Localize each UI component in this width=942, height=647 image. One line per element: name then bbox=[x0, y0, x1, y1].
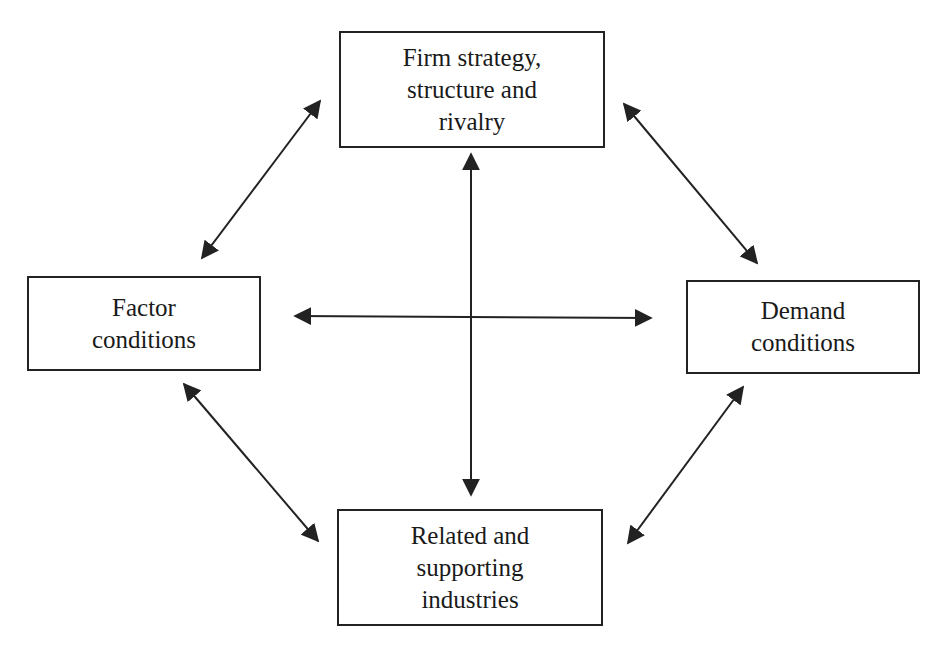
arrow-factor-demand bbox=[295, 316, 651, 318]
node-firm-strategy: Firm strategy, structure and rivalry bbox=[339, 31, 605, 148]
node-label-line: conditions bbox=[751, 327, 855, 359]
node-label-line: rivalry bbox=[439, 106, 506, 138]
node-label-line: supporting bbox=[417, 552, 524, 584]
node-label-line: Related and bbox=[411, 520, 530, 552]
node-label-line: Firm strategy, bbox=[403, 42, 542, 74]
arrow-factor-firm bbox=[202, 101, 320, 258]
node-label-line: Demand bbox=[761, 295, 846, 327]
node-label-line: structure and bbox=[407, 74, 537, 106]
node-demand-conditions: Demand conditions bbox=[686, 280, 920, 374]
arrow-factor-related bbox=[184, 384, 318, 541]
node-label-line: industries bbox=[421, 584, 518, 616]
arrow-related-demand bbox=[628, 387, 743, 543]
node-label-line: conditions bbox=[92, 324, 196, 356]
node-related-supporting-industries: Related and supporting industries bbox=[337, 509, 603, 626]
node-label-line: Factor bbox=[112, 292, 176, 324]
node-factor-conditions: Factor conditions bbox=[27, 276, 261, 371]
arrow-firm-demand bbox=[624, 104, 757, 263]
